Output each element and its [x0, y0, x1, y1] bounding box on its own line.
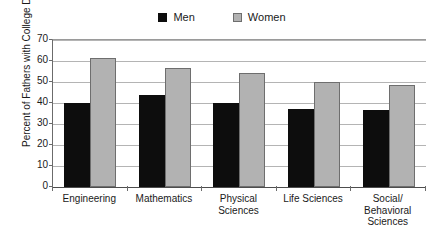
category-tick [425, 186, 426, 191]
category-tick-marks [52, 186, 425, 191]
legend-label-men: Men [173, 12, 194, 23]
bar-women[interactable] [389, 85, 415, 187]
legend-label-women: Women [248, 12, 286, 23]
category-label: PhysicalSciences [201, 193, 276, 228]
legend-swatch-men-icon [158, 13, 167, 22]
bar-chart: Men Women Percent of Fathers with Colleg… [0, 0, 444, 239]
chart-legend: Men Women [0, 9, 444, 25]
category-tick [52, 186, 53, 191]
bar-group [277, 40, 352, 187]
y-tick-label: 10 [26, 160, 48, 170]
y-tick-label: 60 [26, 55, 48, 65]
category-label: Engineering [52, 193, 127, 228]
bar-group [128, 40, 203, 187]
legend-swatch-women-icon [233, 13, 242, 22]
bar-women[interactable] [90, 58, 116, 187]
bar-women[interactable] [165, 68, 191, 187]
y-tick-label: 20 [26, 139, 48, 149]
legend-entry-men: Men [158, 12, 194, 23]
category-tick [127, 186, 128, 191]
bar-group [202, 40, 277, 187]
plot-area [52, 39, 426, 187]
y-tick-label: 30 [26, 118, 48, 128]
bar-men[interactable] [288, 109, 314, 187]
y-tick-label: 0 [26, 181, 48, 191]
category-tick [350, 186, 351, 191]
category-label: Mathematics [127, 193, 202, 228]
bar-group [53, 40, 128, 187]
bar-group [351, 40, 426, 187]
bar-men[interactable] [213, 103, 239, 187]
category-tick [276, 186, 277, 191]
legend-entry-women: Women [233, 12, 286, 23]
bar-women[interactable] [314, 82, 340, 187]
bar-men[interactable] [64, 103, 90, 187]
y-axis-ticks: 706050403020100 [26, 39, 48, 186]
category-label: Life Sciences [276, 193, 351, 228]
category-tick [201, 186, 202, 191]
y-tick-label: 50 [26, 76, 48, 86]
category-label: Social/BehavioralSciences [350, 193, 425, 228]
bar-women[interactable] [239, 73, 265, 187]
y-tick-label: 70 [26, 34, 48, 44]
bar-groups [53, 40, 426, 187]
bar-men[interactable] [363, 110, 389, 187]
y-tick-label: 40 [26, 97, 48, 107]
bar-men[interactable] [139, 95, 165, 187]
x-axis-category-labels: EngineeringMathematicsPhysicalSciencesLi… [52, 193, 425, 228]
